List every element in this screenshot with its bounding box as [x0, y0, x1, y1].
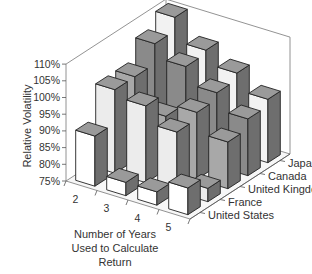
bar-side-face: [95, 128, 107, 186]
y-axis-ticks: 75%80%85%90%95%100%105%110%: [33, 58, 66, 187]
y-tick-label: 80%: [39, 158, 60, 170]
x-tick-mark: [157, 210, 159, 215]
depth-label: Japan: [288, 157, 312, 169]
y-tick-label: 75%: [39, 175, 60, 187]
y-axis-title: Relative Volatility: [21, 71, 33, 181]
depth-tick-mark: [200, 213, 205, 214]
depth-label: France: [228, 196, 262, 208]
bar-front-face: [127, 100, 146, 183]
depth-tick-mark: [220, 200, 225, 201]
x-axis-title-line: Return: [60, 255, 170, 269]
x-tick-mark: [126, 200, 128, 205]
y-tick-label: 90%: [39, 124, 60, 136]
bar-side-face: [115, 82, 127, 174]
y-tick-label: 95%: [39, 108, 60, 120]
depth-label: United Kingdom: [248, 183, 312, 195]
bar-side-face: [228, 134, 240, 189]
bar-side-face: [268, 91, 280, 163]
depth-tick-mark: [240, 187, 245, 188]
x-tick-label: 3: [104, 202, 110, 214]
x-tick-label: 2: [73, 193, 79, 205]
y-tick-label: 105%: [33, 74, 60, 86]
x-axis-title-line: Used to Calculate: [60, 241, 170, 255]
x-tick-mark: [64, 181, 66, 186]
y-tick-label: 110%: [34, 58, 60, 70]
bar-front-face: [76, 130, 95, 186]
x-tick-mark: [95, 191, 97, 196]
depth-label: Canada: [268, 170, 307, 182]
x-axis-title: Number of Years Used to Calculate Return: [60, 227, 170, 269]
bar: [76, 122, 108, 186]
depth-tick-mark: [280, 161, 285, 162]
depth-label: United States: [208, 209, 275, 221]
x-axis-title-line: Number of Years: [60, 227, 170, 241]
depth-tick-mark: [260, 174, 265, 175]
x-tick-label: 4: [135, 212, 141, 224]
y-tick-label: 85%: [39, 141, 60, 153]
x-tick-mark: [188, 219, 190, 224]
bar-side-face: [146, 98, 158, 183]
bar-side-face: [197, 104, 209, 179]
y-tick-label: 100%: [33, 91, 60, 103]
bar-side-face: [248, 111, 260, 176]
bar: [169, 174, 201, 215]
bar: [127, 92, 159, 183]
